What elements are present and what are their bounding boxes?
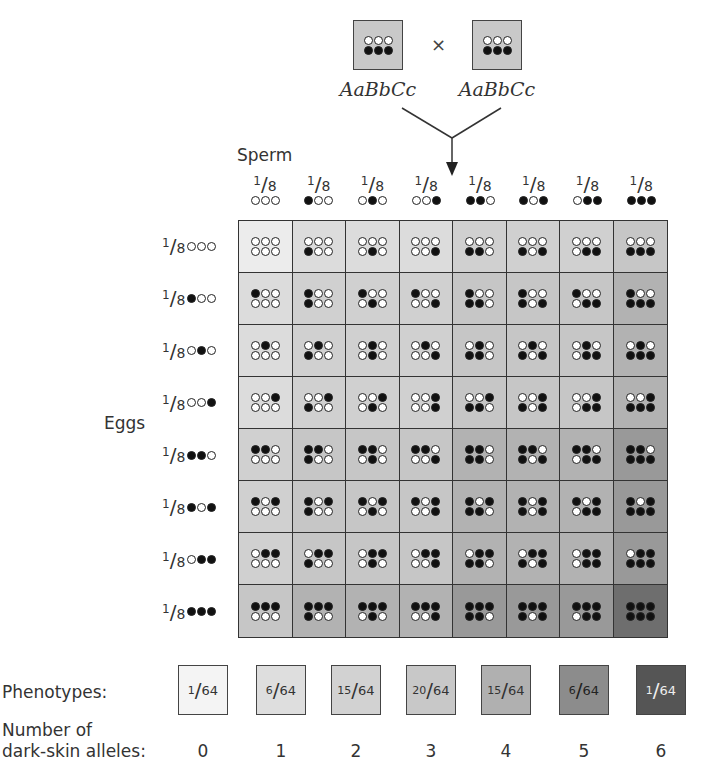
light-allele-icon	[573, 196, 582, 205]
light-allele-icon	[528, 351, 537, 360]
sperm-allele-dots	[518, 247, 547, 256]
light-allele-icon	[324, 455, 333, 464]
light-allele-icon	[485, 455, 494, 464]
punnett-cell	[293, 377, 347, 429]
light-allele-icon	[261, 497, 270, 506]
punnett-cell	[293, 325, 347, 377]
dark-allele-icon	[368, 549, 377, 558]
light-allele-icon	[626, 549, 635, 558]
dark-allele-icon	[314, 602, 323, 611]
dark-allele-icon	[324, 497, 333, 506]
dark-allele-icon	[518, 612, 527, 621]
dark-allele-icon	[582, 612, 591, 621]
light-allele-icon	[421, 455, 430, 464]
gamete-fraction: 1/8	[162, 600, 185, 624]
light-allele-icon	[485, 445, 494, 454]
light-allele-icon	[485, 559, 494, 568]
light-allele-icon	[378, 351, 387, 360]
dark-allele-icon	[626, 299, 635, 308]
dark-allele-icon	[636, 351, 645, 360]
punnett-cell	[293, 273, 347, 325]
punnett-cell	[346, 221, 400, 273]
dark-allele-icon	[411, 289, 420, 298]
dark-allele-icon	[421, 445, 430, 454]
parent-left-genotype: AaBbCc	[323, 78, 433, 100]
light-allele-icon	[411, 559, 420, 568]
light-allele-icon	[271, 351, 280, 360]
sperm-allele-dots	[358, 612, 387, 621]
sperm-allele-dots	[358, 559, 387, 568]
light-allele-icon	[528, 289, 537, 298]
sperm-allele-dots	[572, 299, 601, 308]
light-allele-icon	[421, 497, 430, 506]
egg-allele-dots	[518, 549, 547, 558]
dark-allele-icon	[207, 398, 216, 407]
egg-allele-dots	[358, 549, 387, 558]
dark-allele-icon	[538, 559, 547, 568]
light-allele-icon	[314, 507, 323, 516]
dark-allele-icon	[261, 341, 270, 350]
light-allele-icon	[378, 403, 387, 412]
dark-allele-icon	[368, 602, 377, 611]
dark-allele-icon	[592, 299, 601, 308]
sperm-allele-dots	[465, 455, 494, 464]
punnett-cell	[507, 481, 561, 533]
egg-allele-dots	[358, 393, 387, 402]
egg-header: 1/8	[162, 495, 238, 519]
sperm-allele-dots	[251, 507, 280, 516]
light-allele-icon	[271, 612, 280, 621]
light-allele-icon	[518, 341, 527, 350]
dark-allele-icon	[519, 196, 528, 205]
phenotype-box: 15/64	[331, 665, 381, 715]
punnett-cell	[346, 377, 400, 429]
punnett-cell	[507, 429, 561, 481]
light-allele-icon	[314, 455, 323, 464]
egg-allele-dots	[304, 445, 333, 454]
light-allele-icon	[538, 445, 547, 454]
eggs-label: Eggs	[104, 413, 145, 433]
dark-allele-icon	[465, 455, 474, 464]
egg-allele-dots	[518, 445, 547, 454]
sperm-allele-dots	[465, 507, 494, 516]
sperm-allele-dots	[251, 612, 280, 621]
dark-allele-icon	[646, 299, 655, 308]
egg-allele-dots	[572, 393, 601, 402]
dark-allele-icon	[475, 299, 484, 308]
light-allele-icon	[187, 398, 196, 407]
light-allele-icon	[421, 289, 430, 298]
dark-allele-icon	[538, 393, 547, 402]
light-allele-icon	[207, 242, 216, 251]
punnett-cell	[453, 273, 507, 325]
dark-allele-icon	[421, 549, 430, 558]
light-allele-icon	[485, 403, 494, 412]
dark-allele-icon	[592, 549, 601, 558]
dark-allele-icon	[582, 455, 591, 464]
punnett-cell	[346, 585, 400, 637]
dark-allele-count: 2	[331, 741, 381, 761]
sperm-allele-dots	[304, 299, 333, 308]
sperm-allele-dots	[251, 559, 280, 568]
sperm-allele-dots	[251, 455, 280, 464]
punnett-cell	[453, 221, 507, 273]
punnett-cell	[560, 429, 614, 481]
dark-allele-icon	[582, 299, 591, 308]
dark-allele-icon	[207, 555, 216, 564]
dark-allele-icon	[582, 549, 591, 558]
sperm-allele-dots	[572, 247, 601, 256]
dark-allele-icon	[592, 247, 601, 256]
sperm-allele-dots	[358, 299, 387, 308]
light-allele-icon	[411, 549, 420, 558]
dark-allele-icon	[582, 602, 591, 611]
light-allele-icon	[538, 341, 547, 350]
egg-allele-dots	[626, 341, 655, 350]
dark-allele-icon	[465, 289, 474, 298]
sperm-allele-dots	[572, 403, 601, 412]
light-allele-icon	[261, 351, 270, 360]
dark-allele-icon	[626, 403, 635, 412]
dark-allele-icon	[368, 612, 377, 621]
punnett-cell	[400, 585, 454, 637]
dark-allele-icon	[646, 602, 655, 611]
gamete-fraction: 1/8	[614, 174, 668, 194]
dark-allele-icon	[626, 602, 635, 611]
dark-allele-icon	[485, 497, 494, 506]
